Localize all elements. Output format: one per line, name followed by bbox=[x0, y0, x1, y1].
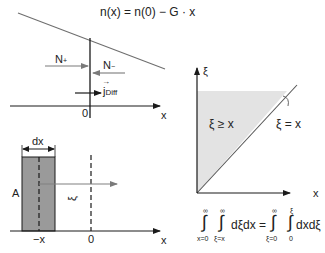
n-plus-label: N+ bbox=[55, 54, 67, 65]
n-plus-subscript: + bbox=[63, 57, 67, 64]
j-subscript: Diff bbox=[105, 88, 117, 97]
origin-label-bottom: 0 bbox=[88, 234, 94, 245]
concentration-formula: n(x) = n(0) − G · x bbox=[100, 6, 195, 18]
rhs-inner-lower: 0 bbox=[289, 235, 293, 242]
minus-x-label: −x bbox=[33, 234, 45, 245]
x-axis-label-bottom: x bbox=[161, 235, 167, 246]
rhs-outer-integral-sign: ∫ bbox=[271, 213, 276, 231]
lhs-outer-integral-sign: ∫ bbox=[202, 213, 207, 231]
origin-label-top: 0 bbox=[82, 108, 88, 119]
n-minus-subscript: − bbox=[111, 63, 115, 70]
rhs-integrand: dxdξ bbox=[296, 219, 321, 231]
volume-element-panel bbox=[10, 145, 160, 231]
lhs-outer-lower: x=0 bbox=[197, 235, 208, 242]
area-label: A bbox=[12, 188, 19, 199]
vector-arrow-icon: → bbox=[102, 78, 110, 86]
lhs-inner-lower: ξ=x bbox=[214, 235, 225, 242]
xi-label: ξ bbox=[67, 196, 78, 201]
region-label: ξ ≥ x bbox=[209, 118, 234, 130]
concentration-line bbox=[18, 13, 165, 69]
dx-label: dx bbox=[32, 136, 44, 147]
concentration-profile-panel bbox=[10, 13, 165, 118]
n-plus-symbol: N bbox=[55, 53, 63, 65]
x-axis-label-top: x bbox=[161, 110, 167, 121]
line-label-leader bbox=[283, 96, 288, 106]
n-minus-symbol: N bbox=[103, 59, 111, 71]
n-minus-label: N− bbox=[103, 60, 115, 71]
x-axis-label-right: x bbox=[313, 188, 319, 199]
line-label: ξ = x bbox=[276, 118, 301, 130]
rhs-inner-integral-sign: ∫ bbox=[288, 213, 293, 231]
rhs-outer-lower: ξ=0 bbox=[266, 235, 277, 242]
lhs-integrand: dξdx = bbox=[231, 219, 266, 231]
diffusion-current-label: →jDiff bbox=[103, 86, 117, 97]
lhs-inner-integral-sign: ∫ bbox=[219, 213, 224, 231]
xi-axis-label: ξ bbox=[203, 66, 208, 77]
